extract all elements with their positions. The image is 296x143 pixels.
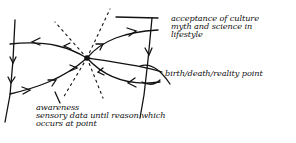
dashed-ray-upper-right — [87, 9, 110, 58]
dashed-ray-lower-left — [63, 58, 87, 98]
dashed-ray-upper-left — [55, 22, 87, 58]
dashed-ray-lower-right — [87, 58, 103, 98]
label-birth-death-reality: birth/death/reality point — [165, 69, 263, 77]
convergence-point — [84, 55, 90, 61]
left-vertical-line — [5, 20, 15, 122]
upper-left-curve — [10, 43, 87, 58]
birth-death-curl — [142, 80, 160, 84]
center-right-line — [87, 58, 162, 72]
label-awareness: awareness sensory data until reason whic… — [36, 103, 165, 127]
left-arrow-icon — [32, 38, 40, 45]
lower-right-curve — [87, 58, 160, 83]
label-acceptance: acceptance of culture myth and science i… — [171, 14, 259, 38]
lower-left-curve — [10, 58, 87, 94]
right-top-bar — [116, 17, 158, 18]
